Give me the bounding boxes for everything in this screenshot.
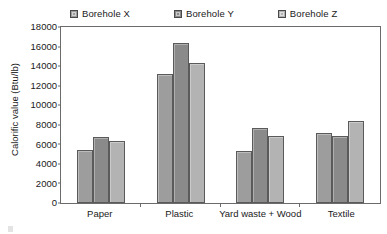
y-axis-tick-label: 12000 — [31, 81, 61, 91]
legend-item-borehole-z[interactable]: Borehole Z — [278, 8, 337, 19]
x-axis-label: Plastic — [140, 207, 220, 223]
bar[interactable] — [173, 43, 189, 203]
bar[interactable] — [93, 137, 109, 203]
bar-group — [61, 27, 141, 203]
bar-groups — [61, 27, 380, 203]
legend-swatch-borehole-x — [70, 10, 78, 18]
x-axis-labels: PaperPlasticYard waste + WoodTextile — [60, 207, 381, 223]
bar[interactable] — [268, 136, 284, 203]
legend-item-borehole-x[interactable]: Borehole X — [70, 8, 130, 19]
bar[interactable] — [236, 151, 252, 203]
bar[interactable] — [348, 121, 364, 203]
legend-swatch-borehole-z — [278, 10, 286, 18]
bar[interactable] — [189, 63, 205, 203]
bar-group — [300, 27, 380, 203]
legend-item-borehole-y[interactable]: Borehole Y — [174, 8, 234, 19]
bar[interactable] — [157, 74, 173, 203]
y-axis-tick-label: 10000 — [31, 100, 61, 110]
bar-chart: Borehole X Borehole Y Borehole Z Calorif… — [0, 0, 387, 234]
legend-swatch-borehole-y — [174, 10, 182, 18]
scan-artifact — [8, 226, 13, 232]
x-axis-label: Textile — [301, 207, 381, 223]
chart-legend: Borehole X Borehole Y Borehole Z — [62, 5, 382, 22]
y-axis-tick-label: 16000 — [31, 42, 61, 52]
bar-group — [141, 27, 221, 203]
y-axis-tick-label: 14000 — [31, 61, 61, 71]
y-axis-tick-label: 18000 — [31, 22, 61, 32]
legend-label-borehole-y: Borehole Y — [186, 8, 234, 19]
bar[interactable] — [109, 141, 125, 203]
y-axis-title: Calorific value (Btu/lb) — [9, 22, 20, 198]
bar[interactable] — [77, 150, 93, 203]
x-axis-label: Paper — [60, 207, 140, 223]
bar[interactable] — [316, 133, 332, 203]
legend-label-borehole-x: Borehole X — [82, 8, 130, 19]
bar[interactable] — [252, 128, 268, 203]
bar-group — [221, 27, 301, 203]
x-axis-label: Yard waste + Wood — [219, 207, 301, 223]
legend-label-borehole-z: Borehole Z — [290, 8, 337, 19]
plot-area: 0200040006000800010000120001400016000180… — [60, 26, 381, 204]
bar[interactable] — [332, 136, 348, 203]
